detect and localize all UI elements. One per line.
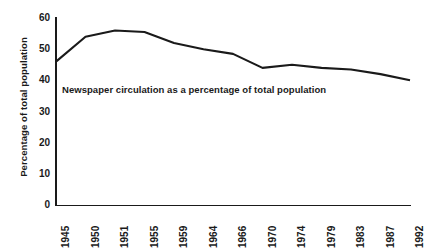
- x-tick-label: 1950: [90, 208, 101, 248]
- x-tick-label: 1966: [237, 208, 248, 248]
- y-tick-label: 0: [28, 200, 50, 210]
- x-tick-label: 1970: [267, 208, 278, 248]
- y-tick-label: 20: [28, 138, 50, 148]
- x-tick-label: 1955: [149, 208, 160, 248]
- y-axis-line: [55, 17, 57, 206]
- x-tick-label: 1987: [385, 208, 396, 248]
- x-axis-line: [55, 205, 411, 207]
- x-tick-label: 1983: [355, 208, 366, 248]
- y-tick-label: 30: [28, 107, 50, 117]
- y-tick-label: 60: [28, 13, 50, 23]
- x-tick-label: 1979: [326, 208, 337, 248]
- plot-annotation-label: Newspaper circulation as a percentage of…: [62, 84, 326, 95]
- y-tick-label: 40: [28, 75, 50, 85]
- y-tick-label: 10: [28, 169, 50, 179]
- x-tick-label: 1974: [296, 208, 307, 248]
- x-tick-label: 1959: [178, 208, 189, 248]
- x-tick-label: 1951: [119, 208, 130, 248]
- x-tick-label: 1964: [208, 208, 219, 248]
- series-line-newspaper-circulation: [56, 30, 410, 80]
- x-tick-label: 1945: [60, 208, 71, 248]
- x-tick-label: 1992: [414, 208, 425, 248]
- y-tick-label: 50: [28, 44, 50, 54]
